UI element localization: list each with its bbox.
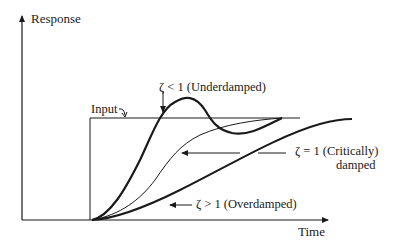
underdamped-label: ζ < 1 (Underdamped) [159,81,266,94]
y-axis-label: Response [31,12,81,25]
step-response-diagram [0,0,410,249]
input-pointer-icon [119,109,125,115]
critically-damped-label-line1: ζ = 1 (Critically) [295,145,378,158]
overdamped-label: ζ > 1 (Overdamped) [196,198,297,211]
input-label: Input [91,103,117,116]
critically-damped-label-line2: damped [336,159,376,172]
x-axis-label: Time [298,225,325,238]
